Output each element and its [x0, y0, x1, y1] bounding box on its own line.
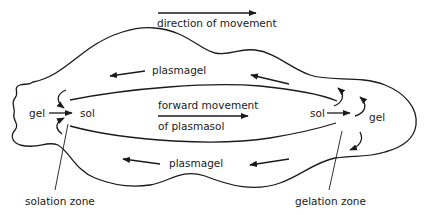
- gel-left-label: gel: [29, 107, 45, 119]
- right-upper-curl-arrow-1: [334, 88, 343, 106]
- plasmagel-bottom-arrow-right: [250, 159, 289, 165]
- solation-zone-label: solation zone: [25, 195, 95, 207]
- direction-label: direction of movement: [157, 17, 277, 29]
- gelation-zone-leader: [329, 131, 342, 190]
- right-upper-curl-arrow-2: [355, 97, 365, 116]
- plasmagel-top-label: plasmagel: [152, 64, 206, 76]
- right-lower-curl-arrow: [350, 132, 362, 150]
- left-upper-curl-arrow: [58, 90, 66, 108]
- plasmagel-bottom-label: plasmagel: [169, 157, 223, 169]
- plasmagel-top-arrow-left: [110, 71, 145, 76]
- gelation-zone-label: gelation zone: [295, 195, 366, 207]
- sol-right-label: sol: [310, 107, 325, 119]
- left-lower-curl-arrow: [57, 118, 64, 134]
- sol-left-label: sol: [80, 107, 95, 119]
- forward-label-1: forward movement: [158, 99, 258, 111]
- plasmagel-top-arrow-right: [251, 75, 289, 84]
- forward-label-2: of plasmasol: [158, 120, 224, 132]
- amoeba-diagram: direction of movement plasmagel plasmage…: [0, 0, 428, 215]
- plasmagel-bottom-arrow-left: [123, 159, 160, 164]
- gel-right-label: gel: [369, 111, 385, 123]
